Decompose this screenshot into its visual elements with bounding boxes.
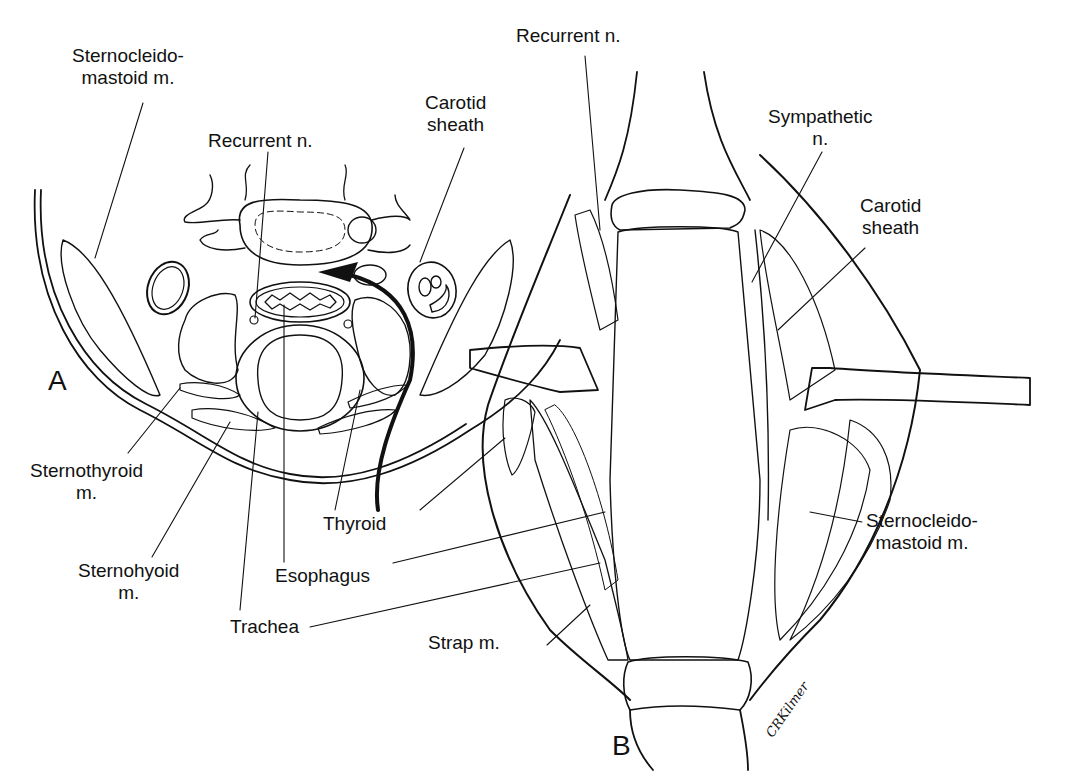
label-line: sheath [860,217,921,239]
panel-b-operative-view [470,72,1030,770]
label-line: Carotid [425,92,486,114]
anatomy-figure: Sternocleido- mastoid m. Recurrent n. Ca… [0,0,1065,771]
label-line: Thyroid [323,513,386,535]
trachea-exposed [610,227,760,660]
trachea-shape [236,325,364,431]
label-b-recurrent-nerve: Recurrent n. [516,25,621,47]
label-line: mastoid m. [866,532,978,554]
label-strap-muscle: Strap m. [428,632,500,654]
label-b-sternocleidomastoid: Sternocleido- mastoid m. [866,510,978,554]
label-b-carotid-sheath: Carotid sheath [860,195,921,239]
label-line: Carotid [860,195,921,217]
label-a-recurrent-nerve: Recurrent n. [208,130,313,152]
label-a-sternocleidomastoid: Sternocleido- mastoid m. [72,45,184,89]
label-line: Trachea [230,616,299,638]
label-line: Strap m. [428,632,500,654]
label-line: n. [768,128,873,150]
label-a-carotid-sheath: Carotid sheath [425,92,486,136]
panel-letter-a: A [48,365,67,397]
label-line: mastoid m. [72,67,184,89]
label-line: Recurrent n. [208,130,313,152]
label-line: Sternocleido- [72,45,184,67]
arrowhead-icon [318,262,358,282]
label-trachea: Trachea [230,616,299,638]
thyroid-left-shape [179,294,238,383]
label-line: m. [78,582,179,604]
label-thyroid: Thyroid [323,513,386,535]
carotid-sheath-b [760,230,835,400]
label-line: Esophagus [275,565,370,587]
label-line: Sternothyroid [30,460,143,482]
label-a-sternohyoid: Sternohyoid m. [78,560,179,604]
illustration-artwork [0,0,1065,771]
label-line: Sternocleido- [866,510,978,532]
label-line: sheath [425,114,486,136]
label-line: Recurrent n. [516,25,621,47]
scm-left-shape [61,240,160,396]
panel-letter-b: B [612,730,631,762]
label-esophagus: Esophagus [275,565,370,587]
label-b-sympathetic-nerve: Sympathetic n. [768,106,873,150]
label-line: Sympathetic [768,106,873,128]
label-line: Sternohyoid [78,560,179,582]
label-a-sternothyroid: Sternothyroid m. [30,460,143,504]
left-retractor [470,346,598,392]
label-line: m. [30,482,143,504]
